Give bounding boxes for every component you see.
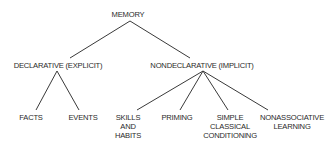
node-nondeclarative: NONDECLARATIVE (IMPLICIT) <box>150 61 253 70</box>
node-nonassociative-line-2: LEARNING <box>260 122 324 131</box>
edge-nondeclarative-priming <box>180 71 203 110</box>
edge-nondeclarative-classical <box>203 71 228 110</box>
node-memory: MEMORY <box>112 10 145 19</box>
node-declarative: DECLARATIVE (EXPLICIT) <box>14 61 103 70</box>
edge-nondeclarative-nonassociative <box>203 71 268 110</box>
node-skills-line-1: SKILLS <box>115 113 141 122</box>
edge-declarative-facts <box>36 71 57 110</box>
node-nonassociative-learning: NONASSOCIATIVE LEARNING <box>260 113 324 131</box>
node-nonassociative-line-1: NONASSOCIATIVE <box>260 113 324 122</box>
node-simple-classical-conditioning: SIMPLE CLASSICAL CONDITIONING <box>203 113 257 140</box>
node-facts: FACTS <box>19 113 42 122</box>
node-skills-line-3: HABITS <box>115 131 141 140</box>
edge-declarative-events <box>57 71 79 110</box>
edge-nondeclarative-skills <box>137 71 203 110</box>
node-events: EVENTS <box>68 113 97 122</box>
node-skills-line-2: AND <box>115 122 141 131</box>
node-classical-line-2: CLASSICAL <box>203 122 257 131</box>
node-skills-and-habits: SKILLS AND HABITS <box>115 113 141 140</box>
node-priming: PRIMING <box>161 113 192 122</box>
edge-memory-declarative <box>70 21 130 58</box>
node-classical-line-3: CONDITIONING <box>203 131 257 140</box>
edge-memory-nondeclarative <box>130 21 190 58</box>
memory-taxonomy-diagram: MEMORY DECLARATIVE (EXPLICIT) NONDECLARA… <box>0 0 332 147</box>
node-classical-line-1: SIMPLE <box>203 113 257 122</box>
